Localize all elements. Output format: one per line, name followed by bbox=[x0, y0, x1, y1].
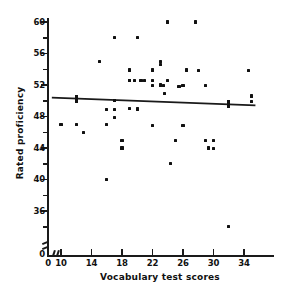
data-point bbox=[82, 131, 85, 134]
data-point bbox=[113, 108, 116, 111]
data-point bbox=[162, 84, 165, 87]
data-point bbox=[194, 20, 197, 23]
data-point bbox=[185, 68, 188, 71]
data-point bbox=[204, 139, 207, 142]
data-point bbox=[120, 146, 123, 149]
data-point bbox=[128, 107, 131, 110]
data-point bbox=[113, 116, 116, 119]
data-point bbox=[140, 79, 143, 82]
data-point bbox=[59, 123, 62, 126]
data-point bbox=[181, 124, 184, 127]
data-point bbox=[136, 36, 139, 39]
data-point bbox=[227, 225, 230, 228]
data-point bbox=[105, 108, 108, 111]
data-point bbox=[212, 147, 215, 150]
data-point bbox=[113, 36, 116, 39]
data-point bbox=[151, 68, 154, 71]
data-point bbox=[75, 123, 78, 126]
data-point bbox=[250, 94, 253, 97]
data-point bbox=[247, 69, 250, 72]
data-point bbox=[128, 68, 131, 71]
plot-data-area bbox=[0, 0, 281, 293]
data-point bbox=[105, 123, 108, 126]
data-point bbox=[98, 60, 101, 63]
regression-line bbox=[0, 0, 281, 293]
data-point bbox=[128, 79, 131, 82]
scatter-plot-figure: 36404448525660 0 010141822263034 Vocabul… bbox=[0, 0, 281, 293]
data-point bbox=[151, 124, 154, 127]
data-point bbox=[133, 79, 136, 82]
data-point bbox=[166, 79, 169, 82]
data-point bbox=[159, 83, 162, 86]
data-point bbox=[212, 139, 215, 142]
data-point bbox=[113, 99, 116, 102]
data-point bbox=[151, 84, 154, 87]
data-point bbox=[250, 100, 253, 103]
data-point bbox=[75, 98, 78, 101]
data-point bbox=[169, 162, 172, 165]
data-point bbox=[197, 69, 200, 72]
data-point bbox=[207, 146, 210, 149]
data-point bbox=[163, 92, 166, 95]
data-point bbox=[120, 139, 123, 142]
data-point bbox=[166, 20, 169, 23]
data-point bbox=[159, 63, 162, 66]
data-point bbox=[136, 107, 139, 110]
data-point bbox=[105, 178, 108, 181]
regression-marker-x32 bbox=[227, 100, 230, 108]
data-point bbox=[181, 84, 184, 87]
data-point bbox=[151, 79, 154, 82]
data-point bbox=[143, 79, 146, 82]
data-point bbox=[174, 139, 177, 142]
